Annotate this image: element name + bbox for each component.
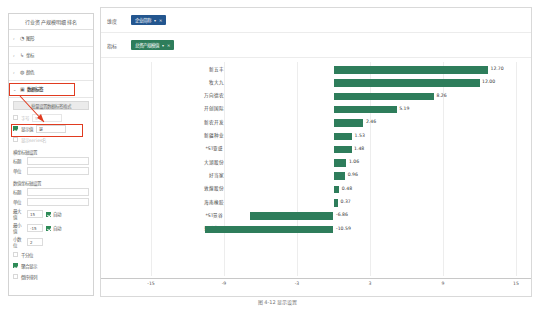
- value-label: 8.26: [436, 93, 446, 98]
- check-row-fontsize[interactable]: 字号 5: [13, 113, 89, 122]
- field-y-unit[interactable]: 单位: [13, 198, 89, 206]
- value-label: 12.00: [482, 79, 495, 84]
- checkbox-label: 聚合显示: [21, 263, 37, 269]
- category-label: 开创国际: [154, 105, 224, 111]
- app-root: 行业资产规模明细排名 › ◔ 图形 › ↳ 坐标 › ◍ 颜色 ⌄ ▣ 数据标签…: [0, 0, 555, 312]
- bar[interactable]: [334, 66, 489, 74]
- checkbox-label: 倒序排列: [21, 274, 37, 280]
- bulk-format-button[interactable]: 批量设置数据标签格式: [13, 101, 89, 110]
- x-axis-line: [101, 278, 531, 279]
- check-row-show-series[interactable]: 显示series名: [13, 135, 89, 144]
- field-decimal[interactable]: 小数位 2: [13, 236, 89, 248]
- field-x-unit[interactable]: 单位: [13, 167, 89, 175]
- accordion-label: 数据标签: [27, 86, 43, 92]
- field-label: 最大值: [13, 208, 24, 220]
- bar[interactable]: [334, 186, 340, 194]
- sidebar-accordion-axis[interactable]: › ↳ 坐标: [9, 47, 93, 64]
- accordion-label: 颜色: [26, 69, 34, 75]
- config-key-dimension: 维度: [107, 17, 121, 24]
- bar[interactable]: [205, 226, 334, 234]
- chevron-down-icon: ⌄: [13, 87, 18, 92]
- value-label: 0.48: [342, 186, 352, 191]
- x-tick-label: 9: [442, 281, 445, 286]
- close-icon[interactable]: ✕: [167, 43, 170, 48]
- chevron-down-icon[interactable]: ▾: [154, 18, 156, 23]
- bar-row: 新疆种业1.53: [101, 131, 531, 143]
- checkbox-thousands[interactable]: [13, 252, 18, 257]
- bar[interactable]: [334, 93, 434, 101]
- value-label: 2.46: [366, 119, 376, 124]
- sidebar-accordion-color[interactable]: › ◍ 颜色: [9, 64, 93, 81]
- checkbox-show-value[interactable]: [13, 126, 18, 131]
- min-auto-toggle[interactable]: 自动: [46, 225, 61, 231]
- dimension-tag[interactable]: 企业简称 ▾ ✕: [131, 15, 166, 25]
- chart-plot-area: 新五丰12.70牧大九12.00万向德农8.26开创国际5.19新农开发2.46…: [101, 60, 531, 276]
- value-label: 1.53: [355, 133, 365, 138]
- bar-chart: 新五丰12.70牧大九12.00万向德农8.26开创国际5.19新农开发2.46…: [101, 60, 531, 296]
- field-label: 标题: [13, 189, 24, 195]
- bar[interactable]: [334, 159, 347, 167]
- bar[interactable]: [334, 172, 346, 180]
- value-label: -10.59: [336, 226, 351, 231]
- checkbox-fontsize[interactable]: [13, 115, 18, 120]
- x-unit-input[interactable]: [27, 167, 89, 175]
- bar[interactable]: [250, 212, 333, 220]
- category-label: 牧大九: [154, 79, 224, 85]
- measure-tag[interactable]: 总资产规模值 ▾ ✕: [131, 40, 174, 50]
- checkbox-aggregate[interactable]: [13, 263, 18, 268]
- checkbox-label: 显示series名: [21, 137, 46, 143]
- max-value-input[interactable]: 15: [27, 210, 43, 218]
- field-min-value[interactable]: 最小值 -15 自动: [13, 222, 89, 234]
- bar[interactable]: [334, 119, 364, 127]
- label-icon: ▣: [20, 86, 25, 92]
- check-row-reverse[interactable]: 倒序排列: [13, 272, 89, 281]
- settings-sidebar: 行业资产规模明细排名 › ◔ 图形 › ↳ 坐标 › ◍ 颜色 ⌄ ▣ 数据标签…: [8, 13, 94, 296]
- decimal-input[interactable]: 2: [27, 238, 43, 246]
- y-unit-input[interactable]: [27, 198, 89, 206]
- bar-row: 大湖股份1.06: [101, 157, 531, 169]
- chevron-down-icon[interactable]: ▾: [162, 43, 164, 48]
- field-label: 单位: [13, 168, 24, 174]
- show-value-input[interactable]: 是: [36, 125, 66, 133]
- bar[interactable]: [334, 146, 352, 154]
- field-max-value[interactable]: 最大值 15 自动: [13, 208, 89, 220]
- max-auto-toggle[interactable]: 自动: [46, 211, 61, 217]
- checkbox-reverse[interactable]: [13, 274, 18, 279]
- checkbox-min-auto[interactable]: [46, 226, 51, 231]
- category-label: 好当家: [154, 172, 224, 178]
- min-value-input[interactable]: -15: [27, 224, 43, 232]
- fontsize-input[interactable]: 5: [32, 114, 62, 122]
- category-label: *ST景谷: [154, 212, 224, 218]
- value-label: 12.70: [491, 66, 504, 71]
- sidebar-accordion-graph[interactable]: › ◔ 图形: [9, 30, 93, 47]
- accordion-label: 图形: [26, 35, 34, 41]
- check-row-show-value[interactable]: 显示值 是: [13, 124, 89, 133]
- config-row-measure: 指标 总资产规模值 ▾ ✕: [101, 33, 531, 58]
- x-title-input[interactable]: [27, 157, 89, 165]
- close-icon[interactable]: ✕: [159, 18, 162, 23]
- sidebar-accordion-data-label[interactable]: ⌄ ▣ 数据标签: [9, 81, 93, 98]
- chevron-right-icon: ›: [13, 36, 18, 41]
- y-title-input[interactable]: [27, 188, 89, 196]
- value-label: 1.06: [349, 159, 359, 164]
- field-y-title[interactable]: 标题: [13, 188, 89, 196]
- check-row-aggregate[interactable]: 聚合显示: [13, 261, 89, 270]
- x-tick-label: -9: [222, 281, 227, 286]
- value-label: 0.96: [348, 172, 358, 177]
- bar[interactable]: [334, 133, 353, 141]
- bar[interactable]: [334, 79, 480, 87]
- field-label: 标题: [13, 158, 24, 164]
- value-label: 1.48: [354, 146, 364, 151]
- field-x-title[interactable]: 标题: [13, 157, 89, 165]
- checkbox-max-auto[interactable]: [46, 212, 51, 217]
- bar-row: 新农开发2.46: [101, 117, 531, 129]
- category-label: 新疆种业: [154, 132, 224, 138]
- section-head-y-axis: 数值坐标轴设置: [13, 180, 89, 186]
- bar[interactable]: [334, 106, 397, 114]
- checkbox-show-series[interactable]: [13, 137, 18, 142]
- bar-row: 牧大九12.00: [101, 77, 531, 89]
- check-row-thousands[interactable]: 千分位: [13, 250, 89, 259]
- chart-icon: ◔: [20, 35, 24, 41]
- measure-tag-label: 总资产规模值: [135, 42, 159, 48]
- bar[interactable]: [334, 199, 339, 207]
